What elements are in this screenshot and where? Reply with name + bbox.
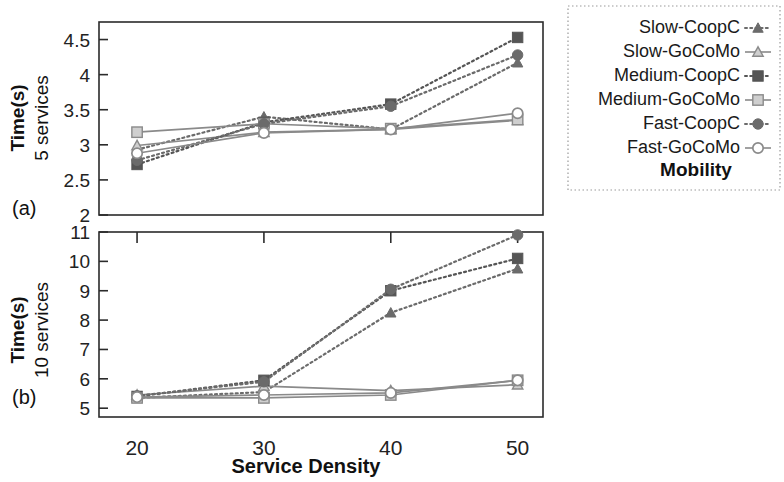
legend-marker-square-open-icon — [753, 95, 763, 105]
series-marker-fast-gocomo — [259, 128, 269, 138]
series-line-fast-coopc — [137, 235, 518, 396]
legend-item-medium-gocomo[interactable]: Medium-GoCoMo — [598, 89, 771, 109]
series-marker-medium-gocomo-glyph — [132, 127, 142, 137]
ytick-label-a: 4.5 — [64, 30, 90, 51]
legend-marker-circle-open-icon-glyph — [753, 143, 763, 153]
series-marker-fast-gocomo — [386, 388, 396, 398]
ytick-label-a: 4 — [79, 65, 90, 86]
series-marker-fast-gocomo-glyph — [132, 392, 142, 402]
legend-marker-square-open-icon-glyph — [753, 95, 763, 105]
panel-b: 56789101120304050 — [69, 222, 543, 459]
legend-item-fast-coopc[interactable]: Fast-CoopC — [643, 113, 771, 133]
panel-a-ylabel-plain: 5 services — [31, 75, 52, 161]
ytick-label-a: 3 — [79, 135, 90, 156]
ytick-label-b: 9 — [79, 281, 90, 302]
legend-title: Mobility — [660, 159, 732, 180]
legend-marker-circle-open-icon — [753, 143, 763, 153]
series-marker-medium-coopc-glyph — [512, 32, 522, 42]
ytick-label-b: 7 — [79, 339, 90, 360]
ytick-label-b: 6 — [79, 369, 90, 390]
series-marker-fast-gocomo — [259, 390, 269, 400]
series-marker-fast-coopc-glyph — [259, 377, 269, 387]
ytick-label-a: 2.5 — [64, 170, 90, 191]
legend-item-label: Fast-CoopC — [643, 113, 740, 133]
figure-container: 22.533.544.5 56789101120304050 Slow-Coop… — [0, 0, 784, 482]
series-line-medium-coopc — [137, 37, 518, 164]
series-marker-fast-coopc — [512, 50, 522, 60]
series-marker-fast-coopc — [386, 101, 396, 111]
legend-item-fast-gocomo[interactable]: Fast-GoCoMo — [627, 137, 771, 157]
series-marker-slow-coopc — [512, 264, 522, 273]
panel-b-tag: (b) — [12, 386, 36, 408]
series-marker-fast-coopc-glyph — [386, 284, 396, 294]
panel-a: 22.533.544.5 — [64, 22, 543, 226]
legend-item-label: Slow-GoCoMo — [623, 41, 740, 61]
series-marker-fast-coopc — [386, 284, 396, 294]
series-marker-fast-coopc-glyph — [386, 101, 396, 111]
series-line-medium-coopc — [137, 258, 518, 396]
series-marker-fast-gocomo-glyph — [386, 388, 396, 398]
xtick-label-b: 50 — [506, 436, 529, 459]
series-marker-fast-gocomo — [386, 124, 396, 134]
legend-marker-square-filled-icon-glyph — [753, 71, 763, 81]
panel-a-ylabel-bold: Time(s) — [7, 84, 28, 151]
legend-marker-circle-filled-icon — [753, 119, 763, 129]
legend-marker-circle-filled-icon-glyph — [753, 119, 763, 129]
series-marker-fast-gocomo — [512, 108, 522, 118]
series-marker-slow-coopc-glyph — [512, 264, 522, 273]
series-line-slow-coopc — [137, 269, 518, 398]
legend-item-label: Medium-CoopC — [614, 65, 740, 85]
legend-item-slow-gocomo[interactable]: Slow-GoCoMo — [623, 41, 771, 61]
xtick-label-b: 40 — [379, 436, 402, 459]
plot-frame-b — [99, 232, 543, 417]
legend-item-medium-coopc[interactable]: Medium-CoopC — [614, 65, 771, 85]
series-marker-fast-coopc — [259, 377, 269, 387]
series-marker-medium-coopc — [512, 253, 522, 263]
legend: Slow-CoopCSlow-GoCoMoMedium-CoopCMedium-… — [568, 6, 780, 190]
series-marker-medium-coopc — [512, 32, 522, 42]
series-marker-fast-gocomo-glyph — [132, 148, 142, 158]
legend-marker-square-filled-icon — [753, 71, 763, 81]
series-marker-fast-gocomo-glyph — [259, 128, 269, 138]
legend-item-label: Slow-CoopC — [639, 17, 740, 37]
legend-item-label: Medium-GoCoMo — [598, 89, 740, 109]
series-marker-fast-coopc — [512, 230, 522, 240]
series-marker-fast-gocomo — [512, 375, 522, 385]
series-marker-fast-coopc-glyph — [512, 50, 522, 60]
ytick-label-b: 5 — [79, 398, 90, 419]
series-marker-fast-gocomo — [132, 148, 142, 158]
legend-item-slow-coopc[interactable]: Slow-CoopC — [639, 17, 771, 37]
series-marker-fast-gocomo-glyph — [259, 390, 269, 400]
chart-svg: 22.533.544.5 56789101120304050 Slow-Coop… — [0, 0, 784, 482]
ytick-label-b: 10 — [69, 251, 90, 272]
series-marker-fast-gocomo — [132, 392, 142, 402]
series-marker-fast-coopc-glyph — [512, 230, 522, 240]
xtick-label-b: 20 — [125, 436, 148, 459]
series-line-slow-coopc — [137, 63, 518, 150]
series-marker-fast-gocomo-glyph — [512, 108, 522, 118]
ytick-label-b: 8 — [79, 310, 90, 331]
panel-b-ylabel-plain: 10 services — [31, 282, 52, 378]
legend-item-label: Fast-GoCoMo — [627, 137, 740, 157]
series-marker-medium-coopc-glyph — [512, 253, 522, 263]
series-marker-medium-gocomo — [132, 127, 142, 137]
series-marker-fast-gocomo-glyph — [512, 375, 522, 385]
panel-a-tag: (a) — [12, 197, 36, 219]
series-line-fast-gocomo — [137, 113, 518, 153]
series-marker-fast-gocomo-glyph — [386, 124, 396, 134]
ytick-label-b: 11 — [70, 222, 90, 243]
xaxis-title: Service Density — [232, 455, 382, 477]
ytick-label-a: 3.5 — [64, 100, 90, 121]
panel-b-ylabel-bold: Time(s) — [7, 296, 28, 363]
